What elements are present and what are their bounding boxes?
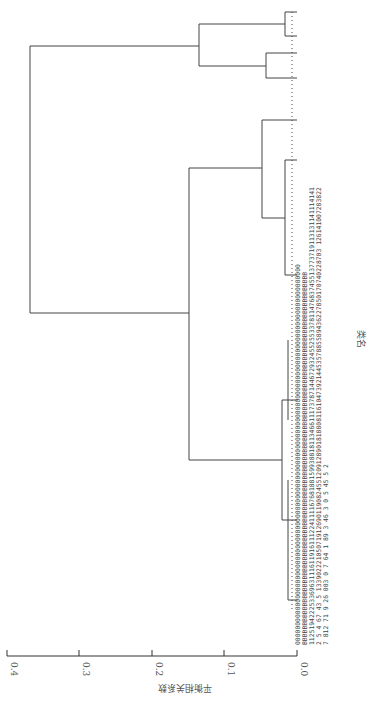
leaf-label-row: 7 812 71 9 26 003 0 7 64 1 89 3 46 3 0 5… [322, 464, 330, 645]
y-axis: 0.4 0.3 0.2 0.1 0.0 平衡相关系数 [7, 650, 309, 694]
tick-0.0: 0.0 [299, 662, 309, 677]
tick-0.3: 0.3 [81, 662, 91, 677]
dendrogram-chart: 0.4 0.3 0.2 0.1 0.0 平衡相关系数 类名 [0, 0, 368, 702]
tick-0.4: 0.4 [9, 662, 19, 677]
tick-0.2: 0.2 [154, 662, 164, 676]
dendrogram-branches [30, 12, 297, 612]
tick-0.1: 0.1 [226, 662, 236, 676]
y-axis-title: 平衡相关系数 [158, 683, 212, 694]
leaf-labels: 0000000000000000000000000000000000000000… [294, 187, 330, 645]
x-axis-title: 类名 [356, 330, 367, 348]
